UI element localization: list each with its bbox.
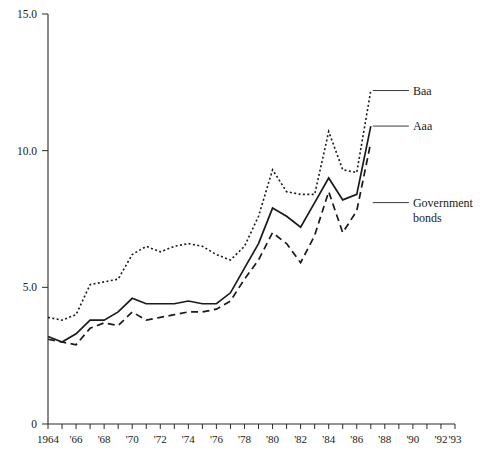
x-axis-tick-label: '76 — [210, 433, 223, 445]
x-axis-tick-label: '80 — [266, 433, 279, 445]
x-axis-tick-label: '84 — [322, 433, 335, 445]
series-line-government-bonds — [48, 142, 371, 344]
x-axis-tick-label: '74 — [182, 433, 195, 445]
x-axis-tick-label: '72 — [154, 433, 167, 445]
series-annotations: BaaAaaGovernmentbonds — [373, 84, 474, 225]
x-axis-tick-label: '68 — [98, 433, 111, 445]
x-axis-tick-label: '88 — [378, 433, 391, 445]
annotation-label-bonds: bonds — [413, 211, 442, 225]
x-axis-tick-label: '90 — [406, 433, 419, 445]
x-axis-tick-label: '93 — [449, 433, 462, 445]
annotation-label-aaa: Aaa — [413, 119, 433, 133]
bond-yield-chart: 05.010.015.0 1964'66'68'70'72'74'76'78'8… — [0, 0, 480, 460]
series-line-baa — [48, 91, 371, 321]
x-axis-tick-label: '70 — [126, 433, 139, 445]
x-axis-tick-label: 1964 — [37, 433, 60, 445]
y-axis: 05.010.015.0 — [17, 8, 48, 430]
x-axis-tick-label: '92 — [434, 433, 447, 445]
chart-plot-area: 05.010.015.0 1964'66'68'70'72'74'76'78'8… — [0, 0, 480, 460]
y-axis-tick-label: 5.0 — [23, 281, 38, 293]
y-axis-tick-label: 15.0 — [17, 8, 37, 20]
x-axis-tick-label: '78 — [238, 433, 251, 445]
x-axis-tick-label: '66 — [70, 433, 83, 445]
annotation-label-baa: Baa — [413, 84, 432, 98]
y-axis-tick-label: 0 — [31, 418, 37, 430]
x-axis: 1964'66'68'70'72'74'76'78'80'82'84'86'88… — [37, 424, 462, 445]
series-lines — [48, 91, 371, 345]
x-axis-tick-label: '86 — [350, 433, 363, 445]
y-axis-tick-label: 10.0 — [17, 145, 37, 157]
annotation-label-government: Government — [413, 196, 474, 210]
x-axis-tick-label: '82 — [294, 433, 307, 445]
